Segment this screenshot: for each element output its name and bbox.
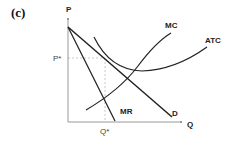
demand-curve: [68, 27, 172, 117]
x-axis-label: Q: [187, 120, 193, 129]
q-star-label: Q*: [100, 127, 109, 136]
demand-label: D: [172, 109, 178, 118]
y-axis-label: P: [66, 5, 72, 14]
atc-label: ATC: [205, 36, 221, 45]
monopoly-diagram: P Q P* Q* D MR MC ATC: [0, 0, 234, 146]
mc-label: MC: [165, 21, 178, 30]
atc-curve: [94, 37, 207, 71]
y-axis-arrow-icon: [67, 18, 69, 20]
p-star-label: P*: [53, 54, 61, 63]
mr-label: MR: [120, 107, 133, 116]
x-axis-arrow-icon: [180, 121, 182, 123]
